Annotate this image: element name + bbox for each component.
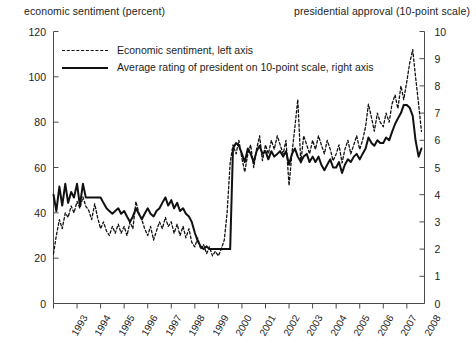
legend-label-economic-sentiment: Economic sentiment, left axis (117, 44, 253, 56)
right-axis-tick-label: 9 (435, 53, 441, 65)
legend-label-presidential-approval: Average rating of president on 10-point … (117, 61, 374, 73)
left-axis-tick-label: 60 (6, 162, 46, 174)
left-axis-tick-label: 100 (6, 71, 46, 83)
series-layer (54, 50, 422, 256)
right-axis-tick-label: 1 (435, 270, 441, 282)
chart-figure: economic sentiment (percent) presidentia… (0, 0, 476, 355)
right-axis-tick-label: 10 (435, 26, 447, 38)
series-line-presidential-approval (54, 105, 422, 249)
right-axis-title: presidential approval (10-point scale) (294, 5, 470, 17)
right-axis-tick-label: 8 (435, 80, 441, 92)
right-axis-tick-label: 5 (435, 162, 441, 174)
series-line-economic-sentiment (54, 50, 422, 256)
legend-entry-presidential-approval: Average rating of president on 10-point … (62, 61, 374, 73)
left-axis-tick-label: 0 (6, 298, 46, 310)
right-axis-tick-label: 3 (435, 216, 441, 228)
right-axis-tick-label: 0 (435, 298, 441, 310)
legend-swatch-dashed-icon (62, 45, 108, 55)
right-axis-tick-label: 2 (435, 243, 441, 255)
left-axis-tick-label: 20 (6, 252, 46, 264)
right-axis-tick-label: 4 (435, 189, 441, 201)
left-axis-title: economic sentiment (percent) (24, 5, 165, 17)
left-axis-tick-label: 40 (6, 207, 46, 219)
legend-entry-economic-sentiment: Economic sentiment, left axis (62, 44, 253, 56)
left-axis-tick-label: 80 (6, 116, 46, 128)
right-axis-tick-label: 6 (435, 134, 441, 146)
axes-layer (54, 32, 425, 309)
right-axis-tick-label: 7 (435, 107, 441, 119)
left-axis-tick-label: 120 (6, 26, 46, 38)
legend-swatch-solid-icon (62, 62, 108, 72)
